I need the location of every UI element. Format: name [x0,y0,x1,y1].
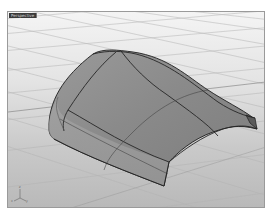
viewport-title-tab[interactable]: Perspective [9,13,37,18]
surface-object[interactable] [49,50,257,186]
axes-widget: z x y [11,186,29,204]
viewport-canvas[interactable] [8,12,265,208]
y-axis-label: y [26,200,28,203]
perspective-viewport[interactable]: Perspective z x y [7,11,265,208]
x-axis-label: x [11,200,13,203]
z-axis-label: z [19,186,21,189]
